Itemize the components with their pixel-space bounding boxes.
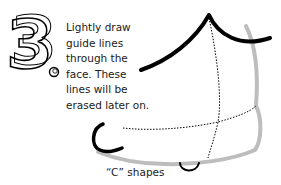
- face-sketch-illustration: [0, 0, 281, 185]
- c-shapes-caption: “C” shapes: [106, 166, 165, 178]
- vertical-guide-line: [208, 18, 220, 158]
- hair-curve: [141, 15, 270, 70]
- c-shape-ear: [94, 124, 122, 152]
- horizontal-guide-line: [123, 106, 256, 129]
